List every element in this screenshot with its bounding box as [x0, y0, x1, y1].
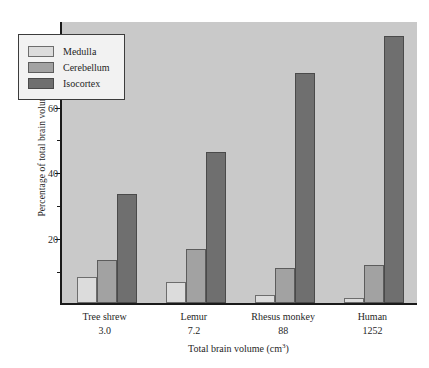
legend-swatch-isocortex	[28, 78, 54, 89]
bar-isocortex	[295, 73, 315, 303]
x-group-value: 7.2	[149, 324, 238, 338]
x-group-value: 88	[239, 324, 328, 338]
bar-cerebellum	[364, 265, 384, 303]
y-tick-label: 20	[48, 234, 58, 245]
x-group-value: 1252	[328, 324, 417, 338]
x-group-name: Rhesus monkey	[239, 310, 328, 324]
bar-isocortex	[384, 36, 404, 303]
bar-isocortex	[206, 152, 226, 303]
x-group-name: Lemur	[149, 310, 238, 324]
legend-item-cerebellum: Cerebellum	[28, 59, 110, 75]
y-tick-label: 60	[48, 102, 58, 113]
x-axis-title-tail: )	[286, 343, 289, 354]
y-tick-mark	[57, 206, 61, 207]
bar-cerebellum	[186, 249, 206, 303]
bar-cerebellum	[275, 268, 295, 303]
x-group-value: 3.0	[60, 324, 149, 338]
legend-label-cerebellum: Cerebellum	[63, 62, 110, 73]
bar-chart-figure: Percentage of total brain volume 2040608…	[0, 0, 429, 368]
x-group-label: Lemur7.2	[149, 310, 238, 338]
bar-medulla	[255, 295, 275, 303]
x-axis-title-text: Total brain volume (cm	[188, 343, 282, 354]
y-tick-mark	[57, 140, 61, 141]
legend-swatch-cerebellum	[28, 62, 54, 73]
bar-cerebellum	[97, 260, 117, 303]
legend-label-isocortex: Isocortex	[63, 78, 100, 89]
bar-isocortex	[117, 194, 137, 303]
legend-label-medulla: Medulla	[63, 46, 96, 57]
legend-item-medulla: Medulla	[28, 43, 110, 59]
x-group-label: Rhesus monkey88	[239, 310, 328, 338]
legend-item-isocortex: Isocortex	[28, 75, 110, 91]
bar-medulla	[166, 282, 186, 303]
y-tick-label: 40	[48, 168, 58, 179]
x-group-name: Human	[328, 310, 417, 324]
chart-legend: Medulla Cerebellum Isocortex	[18, 34, 125, 100]
x-axis-title: Total brain volume (cm3)	[60, 342, 417, 354]
bar-medulla	[344, 298, 364, 303]
y-tick-mark	[57, 272, 61, 273]
legend-swatch-medulla	[28, 46, 54, 57]
x-group-label: Human1252	[328, 310, 417, 338]
bar-medulla	[77, 277, 97, 303]
x-group-label: Tree shrew3.0	[60, 310, 149, 338]
x-group-name: Tree shrew	[60, 310, 149, 324]
